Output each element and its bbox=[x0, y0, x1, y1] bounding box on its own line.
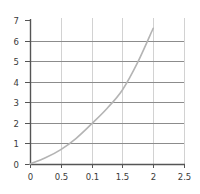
y-axis-ticks: 01234567 bbox=[14, 16, 30, 170]
y-tick-label: 4 bbox=[14, 78, 19, 88]
y-tick-label: 2 bbox=[14, 119, 19, 129]
y-tick-label: 0 bbox=[14, 160, 19, 170]
y-tick-label: 1 bbox=[14, 139, 19, 149]
x-tick-label: 2.5 bbox=[178, 172, 192, 182]
vertical-gridlines bbox=[62, 18, 185, 164]
y-tick-label: 5 bbox=[14, 57, 19, 67]
x-axis-ticks: 00.50.11.522.5 bbox=[28, 164, 191, 182]
y-tick-label: 3 bbox=[14, 98, 19, 108]
x-tick-label: 1.5 bbox=[116, 172, 130, 182]
x-tick-label: 0.1 bbox=[86, 172, 100, 182]
axes bbox=[30, 19, 185, 164]
x-tick-label: 0.5 bbox=[55, 172, 69, 182]
y-tick-label: 7 bbox=[14, 16, 19, 26]
y-tick-label: 6 bbox=[14, 37, 19, 47]
line-chart: 00.50.11.522.5 01234567 bbox=[0, 0, 200, 194]
x-tick-label: 0 bbox=[28, 172, 33, 182]
horizontal-gridlines bbox=[30, 42, 184, 144]
x-tick-label: 2 bbox=[151, 172, 156, 182]
